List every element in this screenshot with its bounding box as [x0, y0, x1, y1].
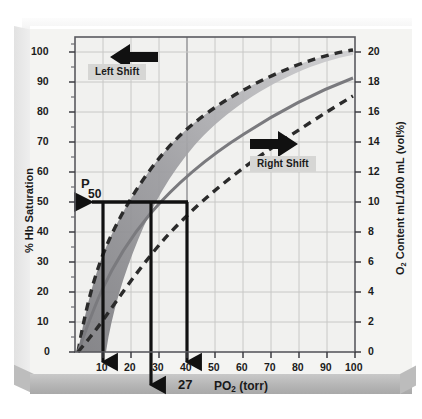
y-tick-50: 50 [37, 196, 49, 207]
y2-tick-2: 2 [368, 316, 374, 327]
x-axis-title-main: PO [214, 379, 231, 393]
y-tick-10: 10 [37, 316, 49, 327]
y2-axis-title-rest: Content mL/100 mL (vol%) [394, 121, 406, 262]
x-tick-10: 10 [96, 362, 108, 373]
x-tick-90: 90 [320, 362, 332, 373]
y2-tick-4: 4 [368, 286, 374, 297]
y-tick-100: 100 [31, 46, 49, 57]
x-tick-100: 100 [345, 362, 363, 373]
p50-subscript: 50 [88, 188, 101, 200]
x-tick-80: 80 [292, 362, 304, 373]
x-tick-50: 50 [208, 362, 220, 373]
y-tick-60: 60 [37, 166, 49, 177]
x-tick-70: 70 [264, 362, 276, 373]
y2-tick-16: 16 [368, 106, 380, 117]
right-shift-label: Right Shift [250, 156, 316, 172]
y2-axis-title: O2 Content mL/100 mL (vol%) [395, 108, 407, 288]
marker-27-label: 27 [178, 378, 192, 391]
dissociation-curve-svg [0, 0, 422, 419]
x-tick-20: 20 [124, 362, 136, 373]
y2-tick-6: 6 [368, 256, 374, 267]
ticks-x [103, 352, 355, 358]
y2-axis-title-sub: 2 [399, 262, 408, 266]
y2-tick-12: 12 [368, 166, 380, 177]
x-axis-title-unit: (torr) [236, 379, 268, 393]
plot-area: 0 10 20 30 40 50 60 70 80 90 100 0 2 4 6… [0, 0, 422, 419]
y-axis-title: % Hb Saturation [24, 151, 35, 271]
y-tick-90: 90 [37, 76, 49, 87]
left-shift-label: Left Shift [88, 64, 146, 80]
y-tick-0: 0 [44, 346, 50, 357]
y2-tick-8: 8 [368, 226, 374, 237]
y-tick-40: 40 [37, 226, 49, 237]
x-axis-title: PO2 (torr) [214, 380, 268, 394]
x-tick-30: 30 [152, 362, 164, 373]
y-tick-80: 80 [37, 106, 49, 117]
x-tick-60: 60 [236, 362, 248, 373]
x-tick-40: 40 [180, 362, 192, 373]
y-tick-70: 70 [37, 136, 49, 147]
y2-tick-10: 10 [368, 196, 380, 207]
ticks-y-right [355, 52, 361, 352]
figure-root: 0 10 20 30 40 50 60 70 80 90 100 0 2 4 6… [0, 0, 422, 419]
y2-tick-0: 0 [368, 346, 374, 357]
y2-tick-18: 18 [368, 76, 380, 87]
y-tick-20: 20 [37, 286, 49, 297]
y-tick-30: 30 [37, 256, 49, 267]
y2-tick-20: 20 [368, 46, 380, 57]
y2-tick-14: 14 [368, 136, 380, 147]
y2-axis-title-main: O [394, 266, 406, 275]
